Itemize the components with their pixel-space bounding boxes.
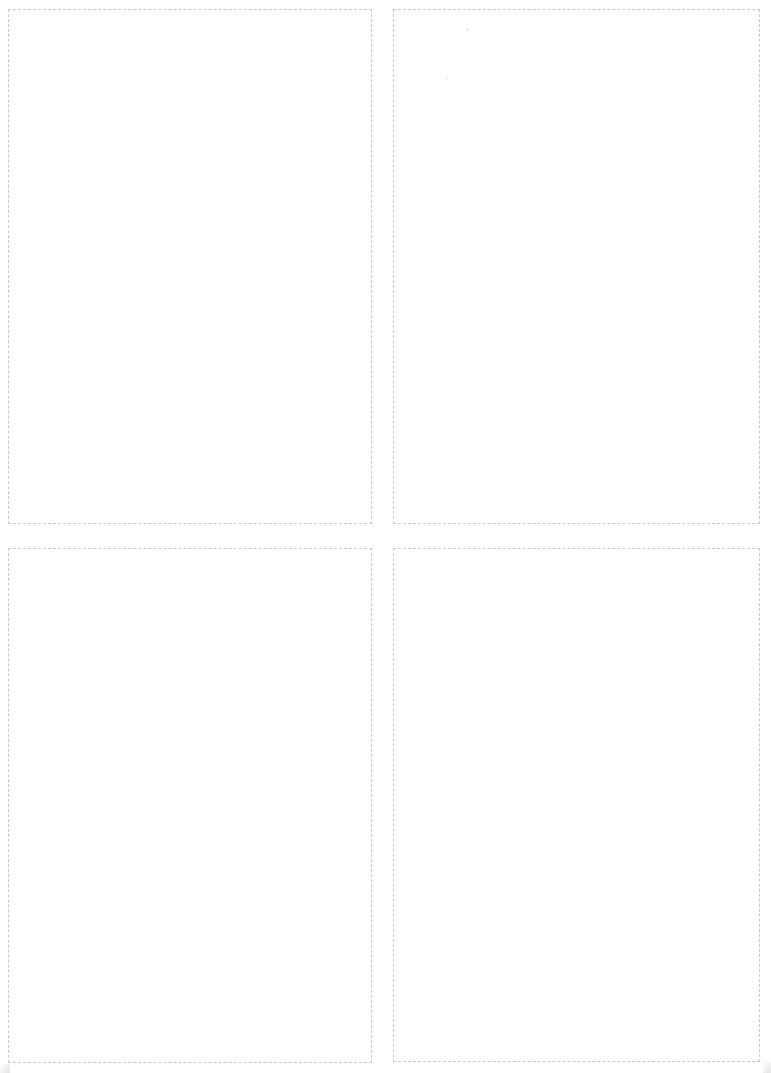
panel-bottom-left-label: [9, 549, 10, 550]
scan-speck: [466, 28, 469, 31]
panel-top-left-label: [9, 10, 10, 11]
panel-bottom-left: [8, 548, 372, 1063]
blank-sheet: [0, 0, 771, 1073]
panel-bottom-right: [393, 548, 760, 1062]
scan-speck: [446, 77, 448, 79]
panel-bottom-right-label: [394, 549, 395, 550]
corner-smudge-bottom-right: [763, 1062, 771, 1073]
panel-top-left: [8, 9, 372, 524]
panel-top-right: [393, 9, 760, 524]
corner-smudge-bottom-left: [0, 1064, 10, 1073]
panel-top-right-label: [394, 10, 395, 11]
